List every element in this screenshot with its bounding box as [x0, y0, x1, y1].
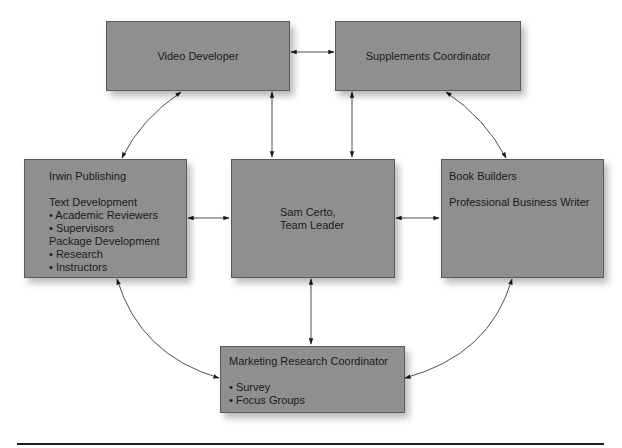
spacer	[49, 183, 160, 196]
node-line: • Survey	[229, 381, 388, 394]
spacer	[449, 183, 589, 196]
node-title: Book Builders	[449, 170, 589, 183]
node-line: • Supervisors	[49, 222, 160, 235]
node-supplements-coordinator: Supplements Coordinator	[335, 21, 521, 91]
node-line: • Academic Reviewers	[49, 209, 160, 222]
edge-supplements-bookbuilders	[446, 92, 506, 158]
edge-video-irwin	[122, 92, 181, 158]
node-line: Text Development	[49, 196, 160, 209]
node-title: Marketing Research Coordinator	[229, 355, 388, 368]
node-line: Team Leader	[280, 219, 394, 232]
node-line: Package Development	[49, 235, 160, 248]
edge-irwin-marketing	[117, 279, 219, 378]
edge-bookbuilders-marketing	[405, 279, 512, 378]
node-book-builders: Book Builders Professional Business Writ…	[441, 159, 604, 278]
node-title: Video Developer	[107, 50, 289, 63]
node-title: Irwin Publishing	[49, 170, 160, 183]
node-line: • Focus Groups	[229, 394, 388, 407]
node-team-leader: Sam Certo, Team Leader	[231, 159, 395, 278]
node-marketing-research: Marketing Research Coordinator • Survey …	[220, 346, 405, 413]
node-line: • Research	[49, 248, 160, 261]
node-subtitle: Professional Business Writer	[449, 196, 589, 209]
node-irwin-publishing: Irwin Publishing Text Development • Acad…	[24, 159, 187, 278]
spacer	[229, 368, 388, 381]
bottom-rule	[17, 443, 604, 445]
node-title: Supplements Coordinator	[336, 50, 520, 63]
node-line: Sam Certo,	[280, 206, 394, 219]
node-video-developer: Video Developer	[106, 21, 290, 91]
node-line: • Instructors	[49, 261, 160, 274]
